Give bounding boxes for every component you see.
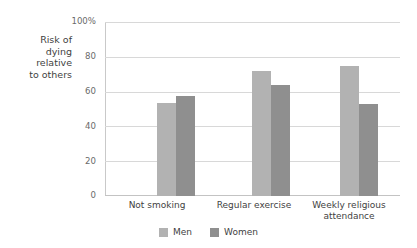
gridline-100 (105, 22, 400, 23)
legend-swatch-men-icon (159, 228, 168, 237)
bar-women-not-smoking (176, 96, 195, 196)
x-axis-label-weekly-religious-attendance: Weekly religious attendance (297, 200, 401, 222)
bar-women-regular-exercise (271, 85, 290, 196)
legend-swatch-women-icon (210, 228, 219, 237)
legend-label-women: Women (224, 227, 258, 237)
plot-area (105, 22, 400, 196)
bar-men-weekly-religious-attendance (340, 66, 359, 196)
bar-men-regular-exercise (252, 71, 271, 196)
legend-label-men: Men (173, 227, 192, 237)
x-axis-label-regular-exercise: Regular exercise (211, 200, 297, 211)
legend-item-women: Women (210, 227, 258, 237)
y-tick-label-20: 20 (36, 157, 96, 166)
x-axis-label-not-smoking: Not smoking (117, 200, 197, 211)
legend-item-men: Men (159, 227, 192, 237)
y-tick-label-40: 40 (36, 122, 96, 131)
y-tick-label-60: 60 (36, 87, 96, 96)
y-tick-label-0: 0 (36, 191, 96, 200)
gridline-80 (105, 57, 400, 58)
bar-men-not-smoking (157, 103, 176, 196)
y-tick-label-80: 80 (36, 52, 96, 61)
y-tick-label-100: 100% (36, 17, 96, 26)
bar-chart: Risk of dying relative to others 100% 80… (0, 0, 417, 248)
chart-legend: Men Women (0, 227, 417, 237)
y-axis-line (105, 22, 106, 196)
bar-women-weekly-religious-attendance (359, 104, 378, 196)
